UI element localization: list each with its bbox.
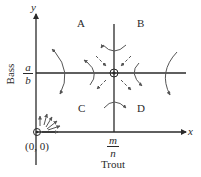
x-numerator: m bbox=[109, 135, 117, 145]
equilibrium-x-fraction: m n bbox=[107, 135, 119, 158]
x-denominator: n bbox=[110, 148, 116, 158]
origin-label: (0, 0) bbox=[25, 141, 49, 152]
y-axis-label: y bbox=[31, 2, 36, 13]
y-denominator: b bbox=[25, 75, 31, 85]
region-b-label: B bbox=[137, 18, 144, 29]
y-axis-title: Bass bbox=[4, 64, 16, 85]
x-axis-label: x bbox=[188, 126, 193, 137]
x-axis-title: Trout bbox=[101, 159, 125, 170]
region-c-label: C bbox=[78, 103, 85, 114]
y-numerator: a bbox=[25, 62, 31, 72]
region-a-label: A bbox=[77, 18, 85, 29]
flow-arrows-origin bbox=[40, 114, 60, 132]
region-d-label: D bbox=[137, 103, 145, 114]
equilibrium-y-fraction: a b bbox=[23, 62, 33, 85]
